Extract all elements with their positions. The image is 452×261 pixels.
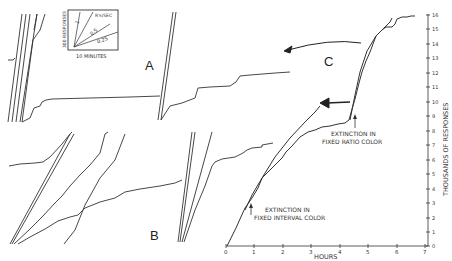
y-tick-10: 10 [432,99,438,105]
y-tick-0: 0 [432,243,435,249]
fr-annotation-line1: EXTINCTION IN [331,130,376,137]
x-tick-7: 7 [423,249,427,255]
y-tick-8: 8 [432,128,435,134]
panel-label-c: C [324,54,333,69]
inset-rate-0-5: 0.5 [89,27,99,37]
fi-annotation-line1: EXTINCTION IN [265,206,310,213]
y-tick-16: 16 [432,12,438,18]
y-tick-4: 4 [432,186,435,192]
y-tick-6: 6 [432,157,435,163]
rate-scale-inset: 300 RESPONSES 10 MINUTES R's/SEC 1 0.5 0… [62,10,118,59]
y-tick-12: 12 [432,70,438,76]
panel-label-a: A [145,58,154,73]
panel-c-arrows [284,42,361,108]
y-tick-15: 15 [432,26,438,32]
y-tick-1: 1 [432,229,435,235]
annotation-fixed-ratio: EXTINCTION IN FIXED RATIO COLOR [322,114,382,145]
y-axis-label: THOUSANDS OF RESPONSES [442,103,450,197]
fr-annotation-line2: FIXED RATIO COLOR [322,138,382,145]
fi-annotation-line2: FIXED INTERVAL COLOR [254,214,325,221]
x-axis-label: HOURS [314,253,337,261]
y-tick-13: 13 [432,55,438,61]
x-tick-5: 5 [366,249,370,255]
y-tick-2: 2 [432,215,435,221]
cumulative-record-figure: 300 RESPONSES 10 MINUTES R's/SEC 1 0.5 0… [0,0,452,261]
x-tick-0: 0 [224,249,228,255]
y-tick-9: 9 [432,113,435,119]
inset-rate-0-25: 0.25 [96,35,109,44]
panel-b-records [9,132,273,244]
x-tick-3: 3 [309,249,313,255]
panel-label-b: B [150,228,159,243]
x-tick-1: 1 [252,249,256,255]
y-tick-3: 3 [432,200,435,206]
inset-rate-1: 1 [74,20,81,25]
x-axis: 0 1 2 3 4 5 6 7 HOURS [224,244,428,261]
x-tick-6: 6 [395,249,399,255]
y-axis: 0 1 2 3 4 5 6 7 8 9 10 11 12 13 14 15 16… [426,12,450,249]
x-tick-4: 4 [338,249,342,255]
x-tick-2: 2 [281,249,285,255]
inset-rate-unit: R's/SEC [95,13,112,18]
panel-c-record [227,16,415,246]
y-tick-5: 5 [432,171,435,177]
y-tick-7: 7 [432,142,435,148]
inset-xlabel: 10 MINUTES [76,53,107,59]
y-tick-11: 11 [432,84,438,90]
annotation-fixed-interval: EXTINCTION IN FIXED INTERVAL COLOR [249,203,325,221]
y-tick-14: 14 [432,41,438,47]
inset-ylabel: 300 RESPONSES [62,11,67,48]
